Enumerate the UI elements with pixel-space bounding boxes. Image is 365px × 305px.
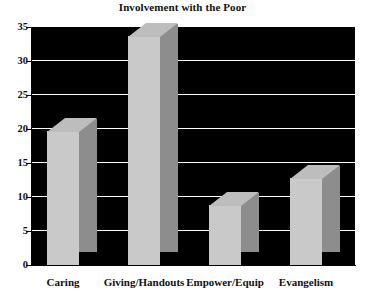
- y-tick-mark: [26, 95, 32, 96]
- y-tick-label: 30: [0, 56, 28, 67]
- bar-top-face: [128, 23, 179, 38]
- y-tick-mark: [26, 265, 32, 266]
- bar-side-face: [160, 24, 178, 252]
- y-tick-mark: [26, 129, 32, 130]
- x-axis-label: Caring: [23, 276, 104, 288]
- bar-top-face: [209, 192, 260, 207]
- chart-figure: Involvement with the Poor 05101520253035…: [0, 0, 365, 305]
- x-axis-label: Empower/Equip: [185, 276, 266, 288]
- y-tick-mark: [26, 231, 32, 232]
- y-tick-label: 5: [0, 226, 28, 237]
- y-tick-label: 10: [0, 192, 28, 203]
- y-tick-label: 35: [0, 22, 28, 33]
- y-tick-mark: [26, 163, 32, 164]
- x-axis-label: Giving/Handouts: [104, 276, 185, 288]
- bar: [128, 24, 178, 265]
- bar-top-face: [47, 118, 98, 133]
- chart-title: Involvement with the Poor: [0, 1, 365, 13]
- gridline: [32, 60, 355, 61]
- bar-side-face: [79, 119, 97, 252]
- bar-top-face: [290, 165, 341, 180]
- bar-front-face: [47, 131, 79, 265]
- bar-front-face: [128, 36, 160, 265]
- y-tick-mark: [26, 61, 32, 62]
- x-axis-line: [32, 265, 356, 266]
- y-tick-mark: [26, 27, 32, 28]
- y-tick-label: 0: [0, 260, 28, 271]
- y-tick-label: 25: [0, 90, 28, 101]
- gridline: [32, 26, 355, 27]
- y-tick-label: 15: [0, 158, 28, 169]
- plot-area: [32, 27, 355, 265]
- bar: [209, 193, 259, 265]
- y-tick-label: 20: [0, 124, 28, 135]
- gridline: [32, 94, 355, 95]
- x-axis-label: Evangelism: [266, 276, 347, 288]
- bar-front-face: [290, 178, 322, 265]
- bar: [47, 119, 97, 265]
- bar-front-face: [209, 205, 241, 265]
- y-tick-mark: [26, 197, 32, 198]
- bar: [290, 166, 340, 265]
